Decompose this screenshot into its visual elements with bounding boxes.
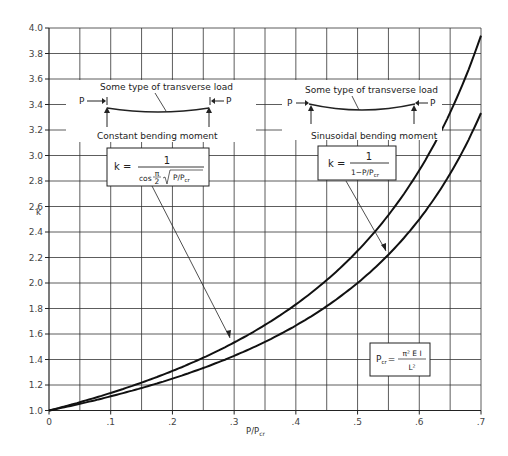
sinusoidal-formula-box: k = 1 1−P/Pcr [318,146,396,180]
left-load-label: Some type of transverse load [100,82,233,92]
right-force-label-right: P [430,98,436,108]
left-force-label-left: P [79,96,85,106]
right-caption: Sinusoidal bending moment [311,131,438,141]
y-tick-label: 2.0 [29,278,44,288]
svg-text:2: 2 [155,177,160,186]
right-load-label: Some type of transverse load [305,85,438,95]
y-tick-label: 1.0 [29,406,44,416]
x-tick-label: .6 [415,417,424,427]
y-tick-label: 1.8 [29,304,44,314]
x-axis-label: P/Pcr [246,426,265,437]
y-tick-label: 3.8 [29,49,44,59]
cos-formula-box: k = 1 cos π 2 P/Pcr [107,148,209,186]
svg-text:cos: cos [139,174,152,183]
y-tick-label: 1.2 [29,380,43,390]
y-axis-label: k [36,207,41,217]
y-tick-label: 4.0 [29,23,44,33]
pcr-formula-box: Pcr= π² E I L² [370,343,430,376]
svg-text:π² E I: π² E I [402,349,421,358]
left-caption: Constant bending moment [97,131,218,141]
y-tick-label: 1.4 [29,355,44,365]
y-tick-label: 2.2 [29,253,43,263]
y-tick-label: 2.8 [29,176,44,186]
left-force-label-right: P [226,96,232,106]
svg-text:L²: L² [408,363,415,372]
right-beam-diagram: Some type of transverse load P P Sinusoi… [282,80,442,141]
y-tick-label: 1.6 [29,329,44,339]
right-force-label-left: P [287,98,293,108]
y-tick-label: 3.0 [29,151,44,161]
left-beam-diagram: Some type of transverse load P P Constan… [66,80,256,142]
y-tick-label: 3.2 [29,125,43,135]
x-tick-label: .1 [106,417,115,427]
y-tick-label: 2.4 [29,227,44,237]
svg-text:k =: k = [328,158,345,169]
x-tick-label: .3 [230,417,239,427]
cos-formula-lhs: k = [114,161,131,172]
x-tick-label: .2 [168,417,177,427]
x-tick-label: 0 [46,417,52,427]
x-tick-label: .5 [353,417,362,427]
svg-text:1: 1 [366,151,372,162]
y-tick-label: 3.6 [29,74,44,84]
x-tick-label: .7 [477,417,486,427]
y-tick-label: 3.4 [29,100,44,110]
cos-leader-line [152,186,230,338]
cos-formula-numerator: 1 [164,155,170,166]
x-tick-label: .4 [292,417,301,427]
buckling-amplification-chart: 1.01.21.41.61.82.02.22.42.62.83.03.23.43… [0,0,508,456]
